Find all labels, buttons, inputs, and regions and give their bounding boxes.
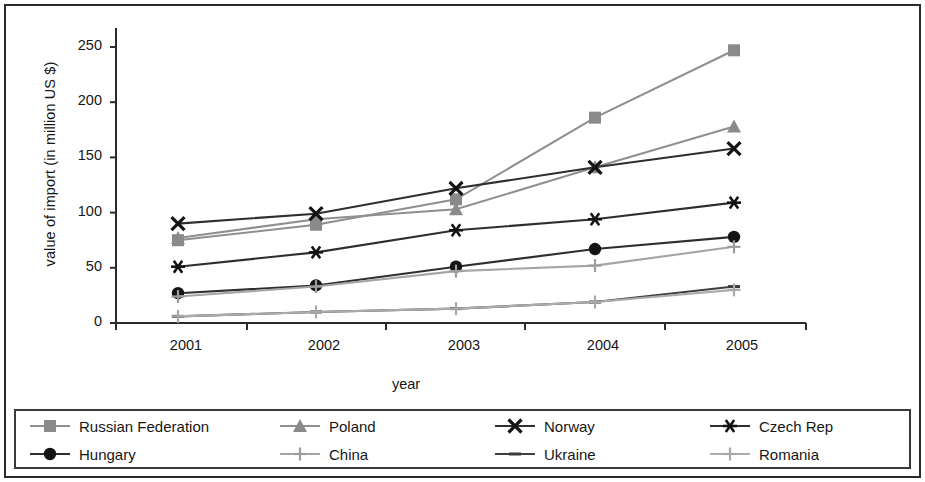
plot-block: value of import (in million US $) year 0…: [6, 6, 919, 402]
x-tick-label: 2002: [289, 337, 359, 353]
axes: [110, 28, 806, 329]
legend-marker-dash-icon: [493, 446, 537, 462]
x-axis-title: year: [6, 376, 806, 392]
series-norway: [172, 142, 741, 230]
legend-item-label: Russian Federation: [79, 418, 209, 435]
y-tick-label: 50: [58, 258, 102, 274]
legend-marker-asterisk-icon: [708, 418, 752, 434]
x-tick-label: 2004: [568, 337, 638, 353]
chart-figure: value of import (in million US $) year 0…: [0, 0, 925, 482]
y-tick-label: 100: [58, 203, 102, 219]
series-poland: [171, 119, 741, 244]
legend: Russian FederationPolandNorwayCzech RepH…: [14, 409, 911, 469]
legend-item-romania[interactable]: Romania: [708, 446, 918, 463]
legend-marker-plus-icon: [278, 446, 322, 462]
legend-item-hungary[interactable]: Hungary: [28, 446, 278, 463]
legend-item-label: Romania: [759, 446, 819, 463]
legend-marker-triangle-icon: [278, 418, 322, 434]
series-russian-federation: [172, 44, 740, 246]
y-tick-label: 250: [58, 37, 102, 53]
legend-item-russian-federation[interactable]: Russian Federation: [28, 418, 278, 435]
series-china: [172, 240, 741, 303]
y-tick-label: 150: [58, 147, 102, 163]
x-tick-label: 2005: [707, 337, 777, 353]
y-tick-label: 200: [58, 92, 102, 108]
x-axis-ticks: [116, 323, 806, 330]
y-axis-title: value of import (in million US $): [42, 34, 58, 294]
legend-marker-plus-icon: [708, 446, 752, 462]
legend-marker-circle-icon: [28, 446, 72, 462]
x-tick-label: 2003: [429, 337, 499, 353]
legend-item-label: Ukraine: [544, 446, 596, 463]
legend-item-czech-rep[interactable]: Czech Rep: [708, 418, 918, 435]
legend-item-label: Hungary: [79, 446, 136, 463]
legend-marker-square-icon: [28, 418, 72, 434]
legend-item-china[interactable]: China: [278, 446, 493, 463]
x-tick-label: 2001: [151, 337, 221, 353]
legend-item-label: Czech Rep: [759, 418, 833, 435]
legend-item-label: Norway: [544, 418, 595, 435]
legend-item-label: Poland: [329, 418, 376, 435]
legend-item-ukraine[interactable]: Ukraine: [493, 446, 708, 463]
legend-item-poland[interactable]: Poland: [278, 418, 493, 435]
legend-item-label: China: [329, 446, 368, 463]
y-tick-label: 0: [58, 313, 102, 329]
legend-marker-x-icon: [493, 418, 537, 434]
legend-item-norway[interactable]: Norway: [493, 418, 708, 435]
